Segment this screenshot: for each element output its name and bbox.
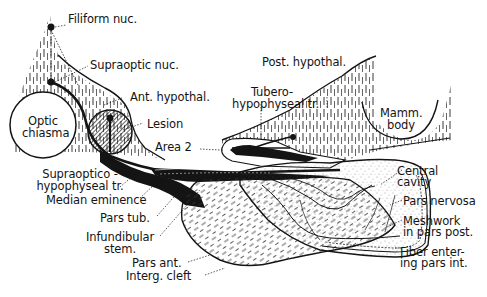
label-fiber-line2: ing pars int. [400, 258, 468, 269]
label-meshwork-line2: in pars post. [403, 227, 473, 238]
label-median-eminence: Median eminence [46, 194, 147, 206]
label-meshwork-pars-post: Meshwork in pars post. [403, 216, 473, 238]
label-pars-anterior: Pars ant. [132, 257, 181, 269]
label-supraoptico-line2: hypophyseal tr. [30, 180, 130, 192]
label-central-cavity: Central cavity [397, 166, 438, 188]
label-ant-hypothalamus: Ant. hypothal. [130, 91, 210, 103]
lesion [88, 110, 132, 154]
label-infundibular-line2: stem. [80, 243, 160, 255]
label-mammillary-body: Mamm. body [380, 107, 422, 131]
label-tubero-line2: hypophyseal tr. [232, 98, 312, 110]
label-post-hypothalamus: Post. hypothal. [262, 56, 346, 68]
label-mamm-line2: body [380, 119, 422, 131]
label-intermediate-cleft: Interg. cleft [126, 270, 191, 282]
label-fiber-entering-pars-int: Fiber enter- ing pars int. [400, 247, 468, 269]
label-optic-chiasma: Optic chiasma [22, 115, 64, 139]
label-lesion: Lesion [147, 118, 183, 130]
label-central-cavity-line2: cavity [397, 177, 438, 188]
label-supraoptico-hypophyseal-tract: Supraoptico - hypophyseal tr. [30, 168, 130, 192]
tubero-nucleus-dot [290, 134, 296, 140]
label-optic-chiasma-line2: chiasma [22, 127, 64, 139]
label-tubero-hypophyseal-tract: Tubero- hypophyseal tr. [232, 86, 312, 110]
label-pars-tuberalis: Pars tub. [100, 212, 150, 224]
label-pars-nervosa: Pars nervosa [403, 195, 476, 207]
label-filiform-nucleus: Filiform nuc. [68, 13, 137, 25]
label-infundibular-stem: Infundibular stem. [80, 231, 160, 255]
label-area-2: Area 2 [155, 141, 192, 153]
label-supraoptic-nucleus: Supraoptic nuc. [90, 59, 179, 71]
